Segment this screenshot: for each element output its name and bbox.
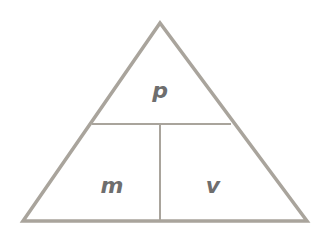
- label-bottom-right-v: v: [206, 173, 221, 198]
- label-bottom-left-m: m: [101, 173, 124, 198]
- label-top-p: p: [151, 78, 168, 103]
- triangle-outline: [23, 23, 307, 221]
- formula-triangle: p m v: [0, 0, 328, 234]
